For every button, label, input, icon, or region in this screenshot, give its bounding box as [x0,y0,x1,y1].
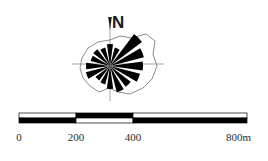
scale-top-segment-2 [133,113,247,118]
rose-petal-s [107,66,113,89]
rose-petal-group [86,34,144,92]
scale-tick-label-0: 0 [16,132,22,143]
scale-top-segment-1 [76,113,133,118]
north-arrow-block: N [0,0,268,108]
wind-rose-diagram [0,0,268,108]
scale-bottom-segment-2 [133,118,247,123]
rose-petal-n [107,44,113,66]
scale-tick-label-800: 800m [226,132,251,143]
scale-bottom-segment-1 [76,118,133,123]
scale-bar-block: 0200400800m [0,108,268,161]
scale-top-segment-0 [19,113,76,118]
rose-petal-e [110,61,143,70]
scale-bar-top-row [19,113,247,118]
map-legend-figure: N 0200400800m [0,0,268,161]
scale-tick-label-400: 400 [125,132,142,143]
north-label: N [112,14,124,31]
scale-bottom-segment-0 [19,118,76,123]
scale-tick-label-200: 200 [68,132,85,143]
scale-bar-bottom-row [19,118,247,123]
